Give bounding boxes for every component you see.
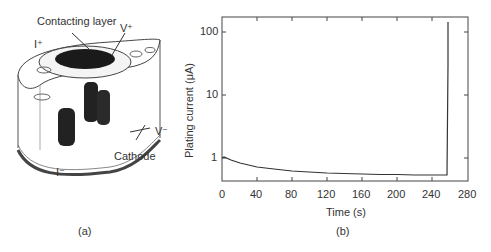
v-plus-label: V⁺ [120,22,133,35]
plot-frame [222,17,468,181]
x-tick-120: 120 [317,188,335,200]
x-tick-40: 40 [250,188,262,200]
i-plus-label: I⁺ [34,38,43,51]
x-tick-80: 80 [285,188,297,200]
current-trace [222,22,448,175]
y-tick-10: 10 [206,88,218,100]
y-axis-label: Plating current (μA) [183,63,195,158]
x-tick-160: 160 [352,188,370,200]
x-tick-200: 200 [387,188,405,200]
v-minus-label: V⁻ [155,125,168,138]
cathode-label: Cathode [114,150,156,162]
i-minus-label: I⁻ [56,166,65,179]
cell-diagram [0,0,491,252]
y-tick-1: 1 [211,151,217,163]
x-tick-0: 0 [219,188,225,200]
x-tick-280: 280 [458,188,476,200]
x-axis-label: Time (s) [326,206,366,218]
panel-b-label: (b) [336,225,349,237]
panel-a-label: (a) [78,225,91,237]
y-tick-100: 100 [200,25,218,37]
x-tick-240: 240 [422,188,440,200]
contacting-layer-label: Contacting layer [37,15,117,27]
